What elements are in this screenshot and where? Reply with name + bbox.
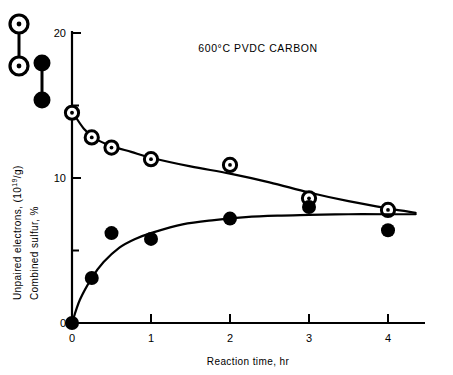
y-axis-tick-labels: 0 10 20 (54, 27, 66, 329)
data-point (65, 316, 79, 330)
data-point (85, 271, 99, 285)
data-series-layer (65, 106, 416, 330)
y-axis-ticks (72, 33, 81, 323)
y-tick-label-10: 10 (54, 172, 66, 184)
trend-curve (72, 111, 416, 213)
x-tick-label-4: 4 (385, 332, 391, 344)
chart-title: 600°C PVDC CARBON (198, 42, 317, 54)
y-tick-label-20: 20 (54, 27, 66, 39)
series-2 (65, 200, 416, 330)
legend (10, 15, 51, 109)
x-axis-tick-labels: 0 1 2 3 4 (69, 332, 391, 344)
data-point (65, 106, 78, 119)
data-point (381, 223, 395, 237)
data-point (302, 200, 316, 214)
data-point (85, 131, 98, 144)
series-1 (65, 106, 415, 216)
x-axis-title: Reaction time, hr (207, 356, 290, 367)
x-tick-label-2: 2 (227, 332, 233, 344)
y-axis-title-combined-sulfur: Combined sulfur, % (29, 206, 40, 300)
y-axis-title-unpaired-electrons: Unpaired electrons, (1019/g) (11, 165, 23, 300)
x-tick-label-0: 0 (69, 332, 75, 344)
data-point (144, 153, 157, 166)
x-tick-label-3: 3 (306, 332, 312, 344)
data-point (105, 226, 119, 240)
data-point (144, 232, 158, 246)
x-tick-label-1: 1 (148, 332, 154, 344)
data-point (223, 212, 237, 226)
figure-container: Unpaired electrons, (1019/g) Combined su… (0, 0, 453, 375)
y-axis-title-group: Unpaired electrons, (1019/g) Combined su… (11, 165, 40, 300)
chart-plot: Unpaired electrons, (1019/g) Combined su… (0, 0, 453, 375)
data-point (105, 141, 118, 154)
trend-curve (72, 214, 416, 323)
x-axis-ticks (72, 314, 388, 323)
data-point (223, 158, 236, 171)
legend-filled-circle-marker (34, 55, 51, 109)
legend-open-circle-dot-marker (10, 15, 28, 75)
